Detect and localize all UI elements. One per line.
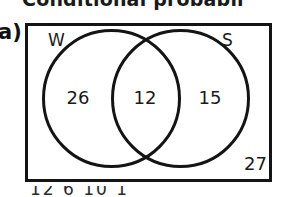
footer-text: 12 6 10 1 — [30, 186, 129, 197]
part-label-a: a) — [0, 22, 22, 43]
region-value-intersection: 12 — [125, 89, 165, 107]
region-value-outside: 27 — [235, 155, 267, 173]
region-value-s-only: 15 — [190, 89, 230, 107]
set-label-w: W — [48, 32, 65, 49]
page-title: Conditional probabil — [22, 0, 244, 10]
venn-diagram-figure: Conditional probabil a) W S 26 12 15 27 … — [0, 0, 286, 197]
figure-heading-cropped: Conditional probabil — [0, 0, 286, 12]
region-value-w-only: 26 — [58, 89, 98, 107]
set-label-s: S — [222, 32, 233, 49]
footer-text-cropped: 12 6 10 1 — [0, 186, 286, 197]
